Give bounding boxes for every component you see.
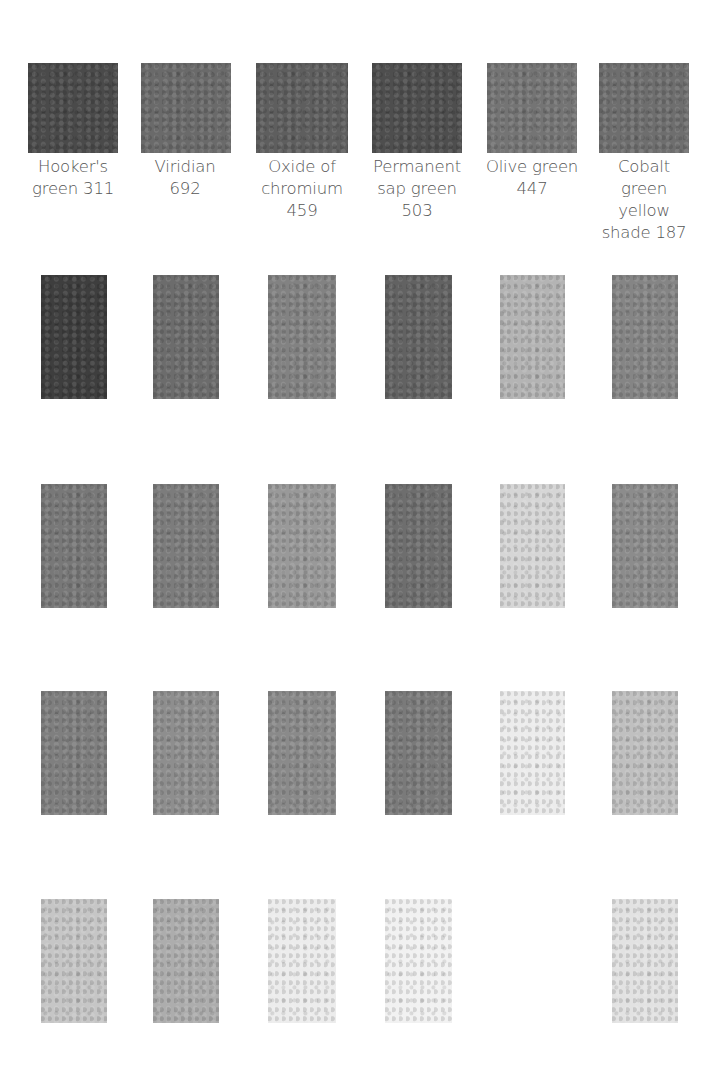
label-line: Viridian — [125, 156, 245, 178]
label-line: Cobalt — [584, 156, 704, 178]
shade-olive-green-1 — [500, 275, 565, 399]
label-permanent-sap-green: Permanent sap green 503 — [357, 156, 477, 222]
label-line: 447 — [472, 178, 592, 200]
shade-oxide-of-chromium-1 — [268, 275, 336, 399]
shade-permanent-sap-green-2 — [385, 484, 452, 608]
shade-permanent-sap-green-1 — [385, 275, 452, 399]
label-line: green 311 — [13, 178, 133, 200]
shade-viridian-3 — [153, 691, 219, 815]
swatch-olive-green — [487, 63, 577, 153]
label-viridian: Viridian 692 — [125, 156, 245, 200]
swatch-viridian — [141, 63, 231, 153]
shade-permanent-sap-green-4 — [385, 899, 452, 1023]
shade-oxide-of-chromium-2 — [268, 484, 336, 608]
shade-cobalt-green-1 — [612, 275, 678, 399]
swatch-cobalt-green-yellow-shade — [599, 63, 689, 153]
shade-oxide-of-chromium-3 — [268, 691, 336, 815]
swatch-hookers-green — [28, 63, 118, 153]
label-line: Hooker's — [13, 156, 133, 178]
shade-permanent-sap-green-3 — [385, 691, 452, 815]
label-line: Permanent — [357, 156, 477, 178]
label-line: chromium — [242, 178, 362, 200]
label-line: 459 — [242, 200, 362, 222]
shade-hookers-green-3 — [41, 691, 107, 815]
shade-oxide-of-chromium-4 — [268, 899, 336, 1023]
shade-cobalt-green-3 — [612, 691, 678, 815]
shade-cobalt-green-2 — [612, 484, 678, 608]
shade-viridian-1 — [153, 275, 219, 399]
label-cobalt-green-yellow-shade: Cobalt green yellow shade 187 — [584, 156, 704, 244]
shade-viridian-2 — [153, 484, 219, 608]
label-line: Olive green — [472, 156, 592, 178]
label-line: Oxide of — [242, 156, 362, 178]
swatch-permanent-sap-green — [372, 63, 462, 153]
shade-hookers-green-2 — [41, 484, 107, 608]
shade-viridian-4 — [153, 899, 219, 1023]
shade-olive-green-2 — [500, 484, 565, 608]
label-line: shade 187 — [584, 222, 704, 244]
label-line: green — [584, 178, 704, 200]
label-line: sap green — [357, 178, 477, 200]
label-olive-green: Olive green 447 — [472, 156, 592, 200]
shade-hookers-green-1 — [41, 275, 107, 399]
shade-cobalt-green-4 — [612, 899, 678, 1023]
shade-olive-green-3 — [500, 691, 565, 815]
label-line: yellow — [584, 200, 704, 222]
label-line: 692 — [125, 178, 245, 200]
shade-hookers-green-4 — [41, 899, 107, 1023]
label-hookers-green: Hooker's green 311 — [13, 156, 133, 200]
label-line: 503 — [357, 200, 477, 222]
label-oxide-of-chromium: Oxide of chromium 459 — [242, 156, 362, 222]
swatch-oxide-of-chromium — [256, 63, 348, 153]
